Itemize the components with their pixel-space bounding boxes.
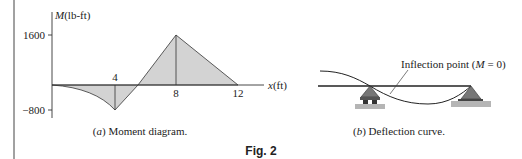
y-tick-label-minus800: −800 xyxy=(22,104,45,116)
roller-support-plate xyxy=(360,97,380,100)
figure-canvas: M(lb-ft) 1600 −800 4 8 12 x(ft) (a) Mome… xyxy=(0,0,522,159)
roller-ground xyxy=(355,104,385,109)
figure-title: Fig. 2 xyxy=(245,144,277,158)
deflection-diagram: Inflection point (M = 0) (b) Deflection … xyxy=(318,58,506,138)
negative-moment-area xyxy=(52,85,138,110)
pin-support-triangle-icon xyxy=(461,86,481,99)
deflection-curve xyxy=(320,71,471,104)
roller-wheel-left-icon xyxy=(363,100,368,104)
caption-b: (b) Deflection curve. xyxy=(353,125,445,138)
roller-support xyxy=(355,86,385,109)
roller-support-triangle-icon xyxy=(361,86,379,97)
y-axis-label: M(lb-ft) xyxy=(54,9,91,22)
x-tick-label-4: 4 xyxy=(112,71,118,83)
pin-support-base xyxy=(458,99,483,101)
y-tick-label-1600: 1600 xyxy=(23,29,46,41)
x-tick-label-8: 8 xyxy=(173,87,179,99)
x-tick-label-12: 12 xyxy=(233,87,244,99)
pin-ground xyxy=(451,101,491,107)
inflection-point-label: Inflection point (M = 0) xyxy=(401,58,506,71)
roller-wheel-right-icon xyxy=(372,100,377,104)
inflection-leader-line xyxy=(390,70,408,94)
caption-a: (a) Moment diagram. xyxy=(93,125,188,138)
positive-moment-area xyxy=(138,35,238,85)
x-axis-label: x(ft) xyxy=(267,79,287,92)
moment-diagram: M(lb-ft) 1600 −800 4 8 12 x(ft) (a) Mome… xyxy=(22,9,287,138)
